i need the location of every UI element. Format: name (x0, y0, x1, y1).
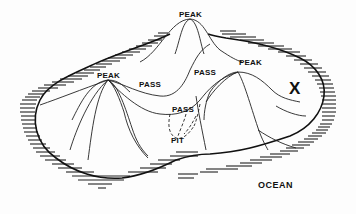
label-ocean: OCEAN (258, 181, 293, 190)
island-topography-diagram: PEAK PEAK PASS PASS PEAK PASS PIT X OCEA… (0, 0, 356, 214)
label-pit: PIT (171, 137, 184, 145)
label-peak-left: PEAK (97, 72, 120, 80)
label-pass-left: PASS (139, 81, 161, 89)
label-x-mark: X (289, 80, 301, 97)
label-pass-center: PASS (172, 106, 194, 114)
label-peak-right: PEAK (239, 59, 262, 67)
label-pass-upper-right: PASS (194, 69, 216, 77)
label-peak-top: PEAK (179, 11, 202, 19)
